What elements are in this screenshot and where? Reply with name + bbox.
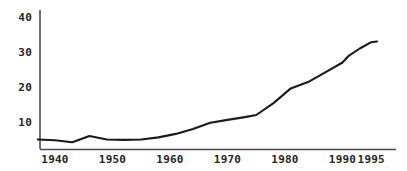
- chart-plot-area: [0, 0, 407, 171]
- data-line-series-1: [38, 42, 377, 143]
- x-tick-label-1960: 1960: [156, 153, 183, 166]
- y-tick-label-30: 30: [0, 46, 32, 59]
- x-tick-label-1940: 1940: [41, 153, 68, 166]
- x-tick-label-1980: 1980: [271, 153, 298, 166]
- axes-group: [40, 10, 396, 150]
- y-tick-label-20: 20: [0, 81, 32, 94]
- data-series-group: [38, 42, 377, 143]
- x-tick-label-1950: 1950: [99, 153, 126, 166]
- y-tick-label-10: 10: [0, 116, 32, 129]
- x-tick-label-1990: 1990: [329, 153, 356, 166]
- line-chart: 10203040 1940195019601970198019901995: [0, 0, 407, 171]
- x-tick-label-1995: 1995: [358, 153, 385, 166]
- y-tick-label-40: 40: [0, 11, 32, 24]
- x-tick-label-1970: 1970: [214, 153, 241, 166]
